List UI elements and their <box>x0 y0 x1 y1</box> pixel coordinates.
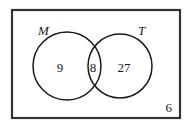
region-value-intersection: 8 <box>90 60 97 75</box>
region-value-m-only: 9 <box>57 60 64 75</box>
set-label-t: T <box>138 23 146 38</box>
venn-diagram-canvas: M T 9 8 27 6 <box>0 0 192 128</box>
region-value-outside: 6 <box>166 100 173 115</box>
venn-diagram-figure: M T 9 8 27 6 <box>0 0 192 128</box>
set-label-m: M <box>37 23 50 38</box>
region-value-t-only: 27 <box>118 60 132 75</box>
